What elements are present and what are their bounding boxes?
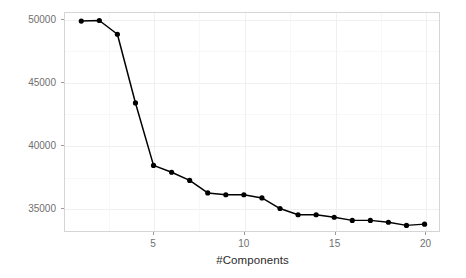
y-tick-label: 45000 <box>20 76 56 87</box>
data-point-marker <box>404 223 409 228</box>
y-tick-label: 50000 <box>20 13 56 24</box>
data-point-marker <box>151 163 156 168</box>
data-point-marker <box>187 178 192 183</box>
x-tick-label: 20 <box>420 238 431 249</box>
data-point-marker <box>368 218 373 223</box>
data-point-marker <box>205 190 210 195</box>
x-tick-mark <box>153 232 154 235</box>
data-point-marker <box>350 218 355 223</box>
data-point-marker <box>422 222 427 227</box>
rmse-components-line-chart: RMSE (Cross-Validation) 3500040000450005… <box>0 0 466 278</box>
data-point-marker <box>97 18 102 23</box>
x-tick-label: 15 <box>329 238 340 249</box>
x-tick-mark <box>335 232 336 235</box>
data-point-marker <box>386 220 391 225</box>
data-point-marker <box>79 19 84 24</box>
x-tick-mark <box>244 232 245 235</box>
plot-panel <box>64 12 440 232</box>
data-point-marker <box>332 215 337 220</box>
data-point-marker <box>241 192 246 197</box>
series-polyline <box>81 20 424 225</box>
data-point-marker <box>259 195 264 200</box>
y-tick-label: 35000 <box>20 203 56 214</box>
data-point-marker <box>133 100 138 105</box>
x-tick-label: 10 <box>238 238 249 249</box>
data-point-marker <box>277 206 282 211</box>
data-series-line <box>65 13 439 231</box>
data-point-marker <box>295 212 300 217</box>
data-point-marker <box>115 32 120 37</box>
data-point-marker <box>169 170 174 175</box>
data-point-marker <box>314 212 319 217</box>
x-tick-mark <box>425 232 426 235</box>
x-tick-label: 5 <box>150 238 156 249</box>
x-axis-title: #Components <box>64 254 441 266</box>
data-point-marker <box>223 192 228 197</box>
y-tick-label: 40000 <box>20 140 56 151</box>
